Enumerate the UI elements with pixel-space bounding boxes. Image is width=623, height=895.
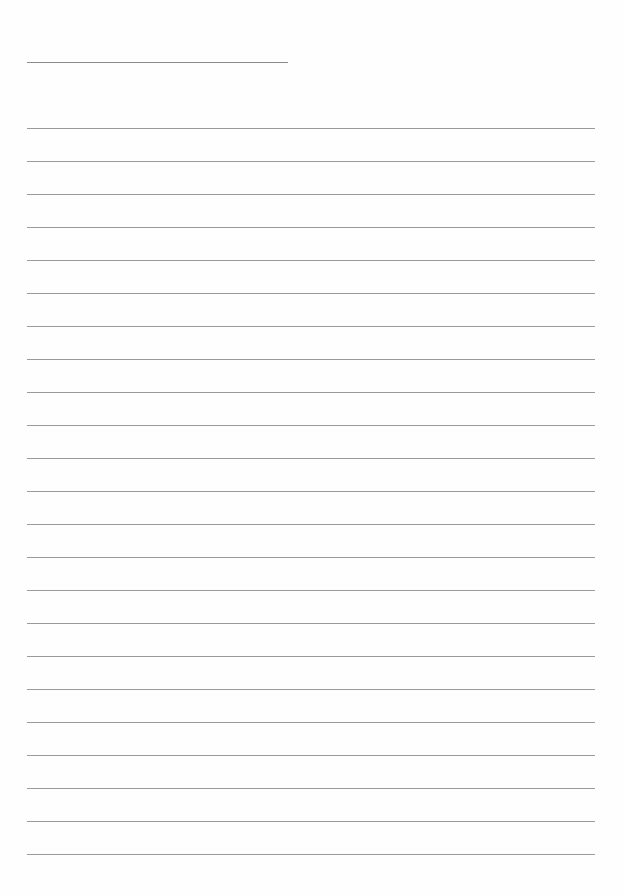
ruled-line [27, 656, 595, 657]
ruled-line [27, 557, 595, 558]
ruled-line [27, 227, 595, 228]
ruled-line [27, 326, 595, 327]
lined-paper-page [0, 0, 623, 895]
ruled-line [27, 491, 595, 492]
ruled-line [27, 590, 595, 591]
ruled-line [27, 821, 595, 822]
ruled-line [27, 755, 595, 756]
ruled-line [27, 689, 595, 690]
ruled-line [27, 722, 595, 723]
ruled-line [27, 293, 595, 294]
ruled-line [27, 161, 595, 162]
ruled-line [27, 854, 595, 855]
ruled-line [27, 788, 595, 789]
ruled-line [27, 359, 595, 360]
ruled-line [27, 623, 595, 624]
ruled-line [27, 524, 595, 525]
title-write-line [27, 62, 288, 63]
ruled-line [27, 260, 595, 261]
ruled-line [27, 425, 595, 426]
ruled-line [27, 392, 595, 393]
ruled-line [27, 128, 595, 129]
ruled-line [27, 458, 595, 459]
ruled-line [27, 194, 595, 195]
